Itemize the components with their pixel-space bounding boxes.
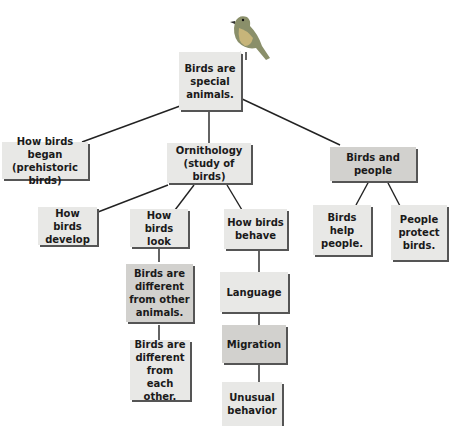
node-diff-other-label: Birds are different from other animals.	[128, 267, 191, 319]
node-behave-label: How birds behave	[226, 216, 285, 242]
node-began: How birds began (prehistoric birds)	[2, 142, 88, 179]
node-protect: People protect birds.	[391, 205, 447, 260]
node-root: Birds are special animals.	[179, 52, 241, 110]
node-diff-each: Birds are different from each other.	[130, 340, 190, 400]
node-unusual: Unusual behavior	[222, 382, 282, 426]
node-migration-label: Migration	[227, 338, 281, 351]
node-ornithology-label: Ornithology (study of birds)	[169, 144, 249, 183]
node-protect-label: People protect birds.	[393, 213, 445, 252]
node-develop: How birds develop	[38, 207, 97, 245]
node-began-label: How birds began (prehistoric birds)	[4, 135, 86, 187]
node-people-label: Birds and people	[332, 151, 414, 177]
node-develop-label: How birds develop	[40, 207, 95, 246]
node-look-label: How birds look	[132, 209, 186, 248]
node-people: Birds and people	[330, 147, 416, 181]
node-help: Birds help people.	[313, 205, 371, 255]
node-behave: How birds behave	[224, 209, 287, 249]
node-ornithology: Ornithology (study of birds)	[167, 143, 251, 183]
node-help-label: Birds help people.	[315, 211, 369, 250]
node-language-label: Language	[226, 286, 281, 299]
node-migration: Migration	[222, 325, 286, 363]
node-language: Language	[220, 272, 288, 312]
node-look: How birds look	[130, 209, 188, 247]
node-diff-other: Birds are different from other animals.	[126, 264, 193, 322]
node-root-label: Birds are special animals.	[181, 62, 239, 101]
node-diff-each-label: Birds are different from each other.	[132, 338, 188, 403]
node-unusual-label: Unusual behavior	[224, 391, 280, 417]
